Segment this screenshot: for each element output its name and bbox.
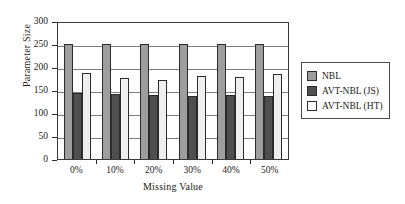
x-axis-tick-label: 40% <box>211 165 251 175</box>
y-axis-tick-label: 200 <box>14 63 48 73</box>
bar <box>273 74 282 159</box>
bar-group <box>140 23 167 159</box>
x-axis-tick-label: 0% <box>56 165 96 175</box>
plot-area <box>57 22 289 160</box>
bar-group <box>64 23 91 159</box>
bar <box>111 94 120 159</box>
bar <box>82 73 91 159</box>
legend-swatch-icon <box>307 101 317 111</box>
bar <box>255 44 264 159</box>
bar <box>226 95 235 159</box>
x-axis-tick-mark <box>212 160 213 164</box>
x-axis-tick-label: 30% <box>172 165 212 175</box>
legend-item-label: NBL <box>322 71 341 81</box>
bar <box>264 96 273 159</box>
bar-group <box>255 23 282 159</box>
bar <box>102 44 111 159</box>
legend-swatch-icon <box>307 71 317 81</box>
y-axis-tick-label: 150 <box>14 86 48 96</box>
bar <box>140 44 149 159</box>
y-axis-tick-label: 100 <box>14 109 48 119</box>
legend-item-label: AVT-NBL (HT) <box>322 101 383 111</box>
bar-group <box>179 23 206 159</box>
bar-chart-figure: Parameter Size 050100150200250300 0%10%2… <box>0 0 405 204</box>
y-axis-tick-label: 300 <box>14 17 48 27</box>
legend-item: AVT-NBL (JS) <box>307 83 383 98</box>
bar-group <box>102 23 129 159</box>
chart-legend: NBLAVT-NBL (JS)AVT-NBL (HT) <box>301 62 390 119</box>
x-axis-tick-label: 20% <box>134 165 174 175</box>
x-axis-tick-mark <box>173 160 174 164</box>
x-axis-tick-mark <box>134 160 135 164</box>
x-axis-tick-mark <box>250 160 251 164</box>
bar <box>64 44 73 159</box>
legend-item: NBL <box>307 68 383 83</box>
bar <box>149 95 158 159</box>
bar <box>217 44 226 159</box>
y-axis-tick-mark <box>52 160 57 161</box>
bar <box>73 93 82 159</box>
y-axis-tick-label: 0 <box>14 155 48 165</box>
y-axis-tick-label: 50 <box>14 132 48 142</box>
x-axis-tick-mark <box>96 160 97 164</box>
x-axis-tick-label: 10% <box>95 165 135 175</box>
legend-item: AVT-NBL (HT) <box>307 98 383 113</box>
bar <box>188 96 197 159</box>
bar-groups <box>58 23 288 159</box>
legend-item-label: AVT-NBL (JS) <box>322 86 379 96</box>
bar <box>179 44 188 159</box>
legend-swatch-icon <box>307 86 317 96</box>
bar <box>197 76 206 159</box>
bar <box>158 80 167 159</box>
x-axis-title: Missing Value <box>57 181 289 192</box>
bar <box>120 78 129 159</box>
x-axis-tick-label: 50% <box>250 165 290 175</box>
bar <box>235 77 244 159</box>
bar-group <box>217 23 244 159</box>
y-axis-tick-label: 250 <box>14 40 48 50</box>
